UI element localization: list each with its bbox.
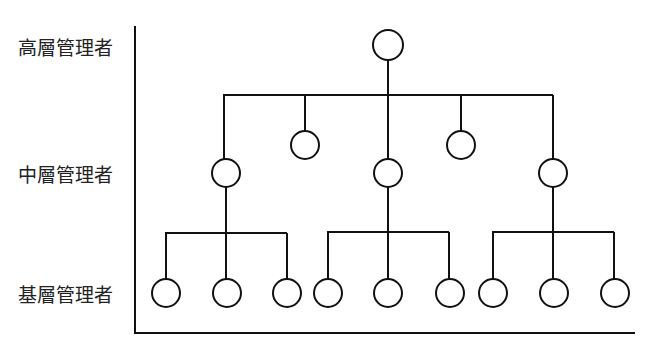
node-base-9 [601,279,629,307]
node-base-5 [374,279,402,307]
node-base-4 [314,279,342,307]
node-base-6 [436,279,464,307]
nodes [152,30,629,307]
node-base-8 [540,279,568,307]
node-mid-left [212,159,240,187]
node-mid-right [539,159,567,187]
node-top-manager [373,30,403,60]
node-staff-left [291,131,319,159]
node-base-2 [213,279,241,307]
org-chart [0,0,652,357]
node-mid-center [374,159,402,187]
node-base-1 [152,279,180,307]
node-staff-right [447,131,475,159]
node-base-3 [273,279,301,307]
node-base-7 [479,279,507,307]
